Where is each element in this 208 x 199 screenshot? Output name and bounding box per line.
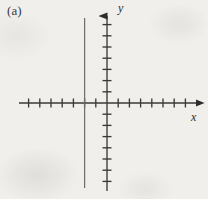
coordinate-plane-plot bbox=[0, 0, 208, 199]
y-axis-label: y bbox=[118, 1, 123, 16]
figure-container: (a) bbox=[0, 0, 208, 199]
x-axis-label: x bbox=[191, 110, 196, 125]
